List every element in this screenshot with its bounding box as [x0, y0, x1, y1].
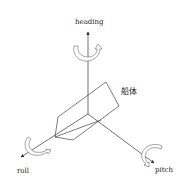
axes-diagram — [0, 0, 188, 192]
roll-label: roll — [17, 168, 29, 175]
pitch-rotation-arrow-icon — [142, 144, 162, 167]
hull-label: 船体 — [121, 88, 137, 96]
pitch-label: pitch — [155, 167, 173, 174]
heading-label: heading — [75, 19, 104, 26]
hull-box — [55, 82, 119, 140]
